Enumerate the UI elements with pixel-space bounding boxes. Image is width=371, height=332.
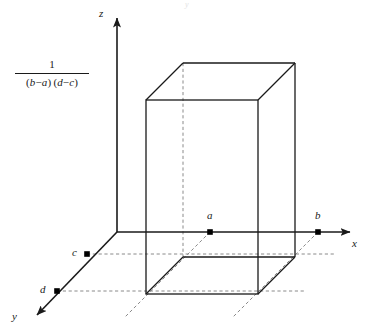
- figure-canvas: [0, 0, 371, 332]
- dashed-line-a-diagonal: [124, 232, 210, 318]
- density-numerator: 1: [14, 58, 90, 73]
- denominator-paren-close-2: ): [74, 76, 78, 88]
- dashed-line-b-diagonal: [232, 232, 318, 318]
- box-edge-bottom-right-connector: [258, 257, 295, 294]
- point-marker-a: [207, 229, 213, 235]
- point-label-d: d: [40, 284, 46, 295]
- point-label-a: a: [207, 210, 213, 221]
- box-edge-bottom-left-connector: [146, 257, 183, 294]
- density-height-label: 1 (b−a) (d−c): [14, 58, 90, 89]
- point-marker-c: [84, 251, 90, 257]
- axis-point-markers: [54, 229, 321, 294]
- box-edge-top-left-connector: [146, 63, 183, 100]
- point-marker-b: [315, 229, 321, 235]
- y-axis-label: y: [12, 311, 17, 322]
- y-axis: [37, 232, 117, 315]
- point-marker-d: [54, 288, 60, 294]
- density-denominator: (b−a) (d−c): [14, 74, 90, 89]
- dashed-construction-lines: [57, 63, 334, 318]
- box-group: [146, 63, 295, 294]
- point-label-c: c: [72, 247, 77, 258]
- x-axis-label: x: [352, 238, 357, 249]
- point-label-b: b: [315, 210, 321, 221]
- scan-artifact-glyph: y: [185, 0, 189, 9]
- uniform-density-figure: 1 (b−a) (d−c) z x y a b c d y: [0, 0, 371, 332]
- z-axis-label: z: [99, 8, 103, 19]
- box-edge-top-right-connector: [258, 63, 295, 100]
- box-front-face: [146, 100, 258, 294]
